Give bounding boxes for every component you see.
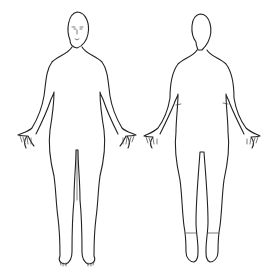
body-diagram xyxy=(0,0,274,279)
back-head xyxy=(192,14,211,50)
body-outline-svg xyxy=(0,0,274,279)
back-figure xyxy=(144,14,260,262)
front-head xyxy=(68,12,88,48)
front-figure xyxy=(18,12,136,266)
back-body xyxy=(144,50,260,262)
